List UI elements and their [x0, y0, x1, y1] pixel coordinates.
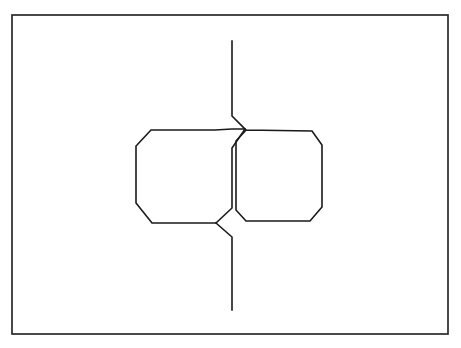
outer-border: [12, 15, 448, 334]
line-drawing-figure: [0, 0, 461, 348]
right-octagon-outline: [236, 130, 322, 221]
drawing-canvas: [0, 0, 461, 348]
top-lead-line: [232, 41, 245, 129]
left-octagon-outline: [136, 129, 245, 223]
bottom-lead-line: [216, 223, 232, 310]
